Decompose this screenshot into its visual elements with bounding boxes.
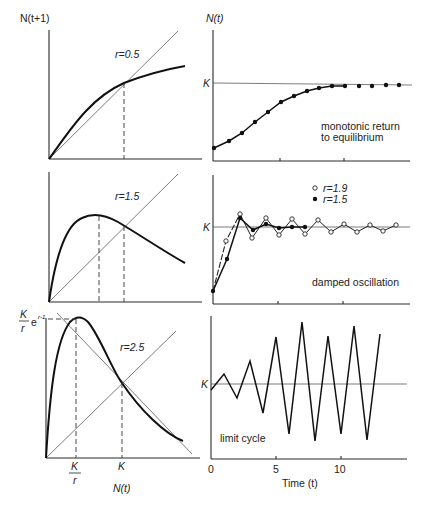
trajectory [211,322,380,441]
legend-open-marker [313,186,317,190]
svg-text:r: r [73,474,77,486]
x-tick-K: K [118,460,126,472]
legend: r=1.9 r=1.5 [313,182,348,205]
annotation-line2: to equilibrium [321,131,384,143]
x-tick-10: 10 [334,463,346,475]
legend-filled-marker [313,197,317,201]
figure: N(t+1) r=0.5 r=1.5 r=2.5 K r e r [0,0,425,511]
map-panel-r25: r=2.5 K r e r-1 K r K N(t) [19,308,200,494]
x-axis-label: Time (t) [282,477,318,489]
map-panel-r15: r=1.5 [49,172,202,302]
r-label: r=0.5 [115,48,139,60]
timeseries-panel-limit-cycle: K limit cycle 0 5 10 Time (t) [201,316,407,489]
r-label: r=2.5 [120,341,144,353]
y-axis-label-left: N(t+1) [20,12,49,24]
svg-text:K: K [20,308,28,320]
timeseries-panel-damped: K r=1.9 r=1.5 damped oscillation [203,175,410,304]
x-tick-K-over-r: K r [69,460,81,486]
annotation: limit cycle [220,432,266,444]
timeseries-panel-monotonic: N(t) K monotonic return to equilibrium [203,12,412,161]
diagonal-line [49,31,178,159]
svg-text:e: e [31,316,37,328]
r-label: r=1.5 [115,190,139,202]
svg-text:r-1: r-1 [38,314,45,320]
map-curve [49,215,185,302]
x-tick-5: 5 [273,463,279,475]
x-tick-0: 0 [208,463,214,475]
y-axis-label-right: N(t) [206,12,224,24]
map-panel-r05: N(t+1) r=0.5 [20,12,202,159]
tangent-line [57,313,192,454]
svg-text:K: K [71,460,79,472]
legend-r15: r=1.5 [323,193,347,205]
y-tick-K: K [203,221,211,233]
diagonal-line [46,331,176,458]
map-curve [46,318,183,459]
x-axis-label: N(t) [113,482,131,494]
svg-text:r: r [21,322,25,334]
map-curve [49,66,185,159]
y-tick-K: K [203,77,211,89]
y-tick-max-label: K r e r-1 [19,308,45,334]
y-tick-K: K [201,378,209,390]
annotation: damped oscillation [312,276,399,288]
K-line [213,83,412,85]
diagonal-line [49,174,178,302]
